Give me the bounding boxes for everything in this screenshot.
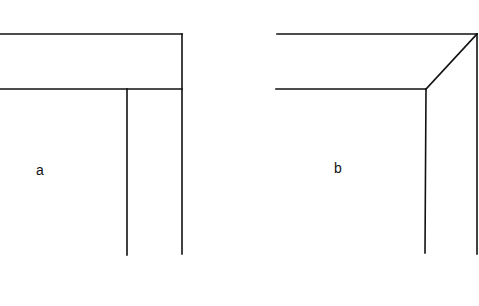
panel-a-butt-joint: a xyxy=(0,34,182,255)
panel-b-mitre-joint: b xyxy=(276,34,477,254)
panel-a-label: a xyxy=(36,162,44,178)
panel-b-label: b xyxy=(334,160,342,176)
panel-b-mitre-diagonal xyxy=(426,34,477,89)
corner-joint-diagram: a b xyxy=(0,0,479,306)
panel-b-inner-vertical-edge xyxy=(425,89,426,253)
